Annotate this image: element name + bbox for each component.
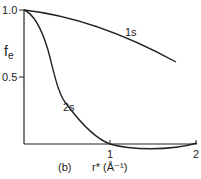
curve-label-1s: 1s: [125, 27, 137, 38]
y-tick-label-1-0: 1.0: [2, 5, 17, 16]
y-tick-label-0-5: 0.5: [2, 72, 17, 83]
curve-2s: [24, 10, 197, 149]
x-tick-label-1: 1: [107, 149, 113, 160]
panel-label: (b): [58, 162, 71, 173]
y-axis-label: fe: [4, 46, 13, 61]
y-axis-label-sub: e: [8, 50, 14, 61]
curve-1s: [24, 10, 176, 62]
chart-plot: [0, 0, 201, 179]
curve-label-2s: 2s: [63, 102, 75, 113]
x-tick-label-2: 2: [193, 149, 199, 160]
x-axis-label: r* (Å⁻¹): [92, 162, 127, 173]
